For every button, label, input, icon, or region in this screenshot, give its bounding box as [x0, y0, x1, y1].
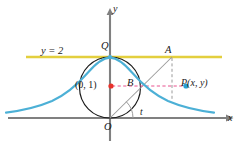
circle-center-dot — [108, 83, 113, 88]
label-circle-center: (0, 1) — [75, 80, 97, 90]
label-point-A: A — [165, 45, 171, 56]
label-point-P: P(x, y) — [181, 78, 208, 88]
label-point-B: B — [127, 78, 133, 89]
label-axis-x: x — [228, 113, 232, 123]
agnesi-diagram: y = 2 Q A B P(x, y) (0, 1) O t x y — [0, 0, 238, 143]
point-Q-dot — [108, 55, 112, 59]
diagram-canvas — [0, 0, 238, 143]
label-tangent-line: y = 2 — [41, 46, 63, 57]
label-axis-y: y — [113, 4, 117, 14]
label-point-Q: Q — [101, 41, 109, 52]
angle-arc-t — [126, 102, 133, 118]
label-origin: O — [104, 122, 112, 133]
label-angle-t: t — [140, 108, 143, 118]
